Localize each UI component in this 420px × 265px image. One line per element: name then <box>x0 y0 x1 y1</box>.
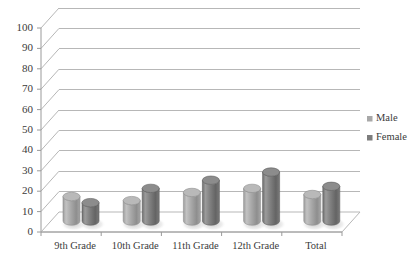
bar-cap <box>183 188 200 196</box>
bar-body <box>202 180 219 225</box>
y-tick-label: 60 <box>22 103 34 115</box>
depth-line <box>41 8 59 28</box>
bar-cap <box>123 196 140 204</box>
depth-line <box>41 151 59 171</box>
y-tick-label: 30 <box>22 164 34 176</box>
depth-line <box>41 90 59 110</box>
bar-chart: 0102030405060708090100 9th Grade10th Gra… <box>0 0 420 265</box>
bar-cap <box>323 182 340 190</box>
bar-cap <box>63 192 80 200</box>
depth-line <box>41 69 59 89</box>
y-axis <box>37 28 41 232</box>
legend-label-male: Male <box>376 112 398 123</box>
gridlines <box>59 8 360 192</box>
x-tick-labels: 9th Grade10th Grade11th Grade12th GradeT… <box>54 240 326 251</box>
bar-cap <box>82 198 99 206</box>
x-tick-label: 9th Grade <box>54 240 96 251</box>
depth-line <box>41 110 59 130</box>
x-axis <box>41 232 342 236</box>
bar-body <box>304 194 321 225</box>
y-tick-labels: 0102030405060708090100 <box>17 21 34 237</box>
bars <box>61 168 347 231</box>
y-tick-label: 70 <box>22 82 34 94</box>
chart-canvas: 0102030405060708090100 9th Grade10th Gra… <box>0 0 420 265</box>
chart-legend: MaleFemale <box>367 112 407 142</box>
bar-female-2 <box>200 176 226 231</box>
bar-female-3 <box>260 168 286 231</box>
y-tick-label: 40 <box>22 143 34 155</box>
y-tick-label: 90 <box>22 41 34 53</box>
bar-cap <box>304 190 321 198</box>
legend-marker-male <box>367 116 373 122</box>
depth-line <box>41 171 59 191</box>
bar-cap <box>142 184 159 192</box>
y-tick-label: 0 <box>28 225 34 237</box>
bar-cap <box>202 176 219 184</box>
bar-female-4 <box>320 182 346 231</box>
x-tick-label: 11th Grade <box>172 240 219 251</box>
y-tick-label: 50 <box>22 123 34 135</box>
bar-body <box>183 192 200 225</box>
bar-body <box>263 172 280 225</box>
bar-body <box>142 188 159 225</box>
bar-body <box>244 188 261 225</box>
y-tick-label: 10 <box>22 205 34 217</box>
y-tick-label: 20 <box>22 184 34 196</box>
y-tick-label: 100 <box>17 21 34 33</box>
depth-line <box>41 130 59 150</box>
legend-marker-female <box>367 135 373 141</box>
depth-lines <box>41 8 59 212</box>
bar-body <box>323 186 340 225</box>
bar-cap <box>244 184 261 192</box>
bar-cap <box>263 168 280 176</box>
y-tick-label: 80 <box>22 62 34 74</box>
depth-line <box>41 192 59 212</box>
depth-line <box>41 49 59 69</box>
legend-label-female: Female <box>376 131 407 142</box>
x-tick-label: 12th Grade <box>232 240 279 251</box>
x-tick-label: Total <box>305 240 327 251</box>
depth-line <box>41 28 59 48</box>
x-tick-label: 10th Grade <box>112 240 159 251</box>
